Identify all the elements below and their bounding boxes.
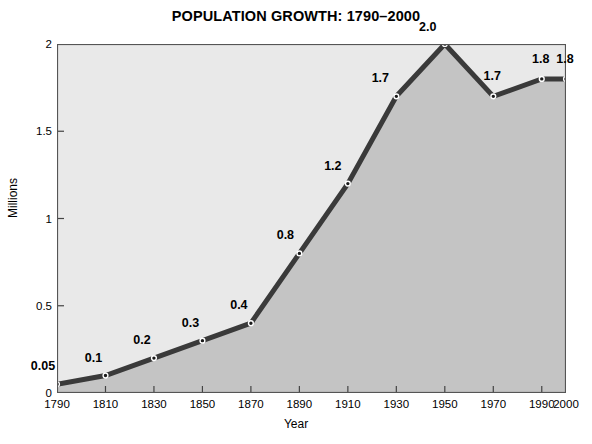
data-point-marker	[249, 321, 254, 326]
data-point-label: 1.7	[372, 71, 389, 85]
y-tick-label: 0.5	[20, 300, 52, 312]
data-point-marker	[539, 77, 544, 82]
data-point-label: 0.8	[277, 228, 294, 242]
data-point-label: 0.05	[31, 359, 55, 373]
x-tick-label: 1910	[335, 398, 361, 410]
data-point-label: 0.3	[182, 316, 199, 330]
x-tick-label: 1930	[384, 398, 410, 410]
x-tick-label: 1850	[190, 398, 216, 410]
data-point-marker	[394, 94, 399, 99]
data-point-label: 0.2	[133, 333, 150, 347]
data-point-label: 1.7	[484, 69, 501, 83]
x-tick-label: 1870	[238, 398, 264, 410]
y-tick-label: 1.5	[20, 125, 52, 137]
data-point-label: 2.0	[419, 20, 436, 34]
x-tick-label: 1890	[287, 398, 313, 410]
data-point-marker	[103, 373, 108, 378]
chart-title: POPULATION GROWTH: 1790–2000	[0, 8, 592, 24]
data-point-marker	[152, 356, 157, 361]
x-tick-label: 1790	[44, 398, 70, 410]
data-point-label: 0.1	[85, 351, 102, 365]
y-tick-label: 2	[20, 38, 52, 50]
data-point-marker	[345, 181, 350, 186]
data-point-label: 1.2	[324, 159, 341, 173]
x-tick-label: 1830	[141, 398, 167, 410]
x-tick-label: 1950	[432, 398, 458, 410]
x-tick-label: 2000	[553, 398, 579, 410]
x-tick-label: 1970	[480, 398, 506, 410]
data-point-marker	[491, 94, 496, 99]
data-point-marker	[297, 251, 302, 256]
data-point-label: 1.8	[556, 52, 573, 66]
x-tick-label: 1810	[93, 398, 119, 410]
data-point-marker	[200, 338, 205, 343]
y-axis-label: Millions	[6, 178, 20, 218]
y-tick-label: 1	[20, 213, 52, 225]
data-point-label: 1.8	[532, 52, 549, 66]
x-tick-label: 1990	[529, 398, 555, 410]
data-point-label: 0.4	[230, 298, 247, 312]
chart-figure: POPULATION GROWTH: 1790–2000 Millions Ye…	[0, 0, 592, 444]
x-axis-label: Year	[0, 417, 592, 431]
